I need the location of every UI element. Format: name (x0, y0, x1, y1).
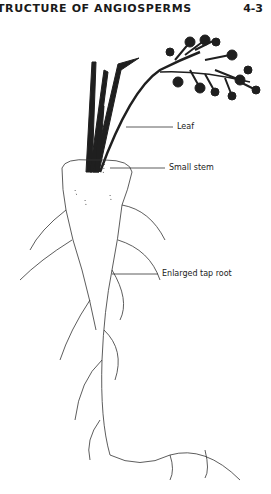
foliage-icon (86, 35, 260, 172)
tap-root-icon (20, 160, 240, 480)
label-enlarged-tap-root: Enlarged tap root (162, 269, 232, 278)
label-leaf: Leaf (177, 122, 194, 131)
label-small-stem: Small stem (169, 163, 214, 172)
carrot-illustration (0, 0, 271, 494)
